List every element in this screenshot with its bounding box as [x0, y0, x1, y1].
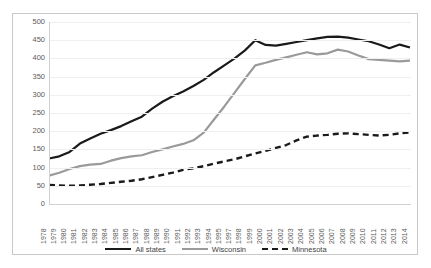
legend-item-all-states[interactable]: All states [105, 245, 165, 254]
gridline [49, 95, 411, 96]
y-axis-tick-label: 450 [17, 36, 45, 44]
legend-label: All states [135, 245, 165, 254]
chart-frame: 500450400350300250200150100500 197819791… [12, 13, 418, 255]
legend-item-minnesota[interactable]: Minnesota [262, 245, 327, 254]
legend-label: Wisconsin [212, 245, 246, 254]
legend-swatch-icon [182, 248, 208, 250]
plot-area [49, 22, 411, 204]
series-line-minnesota [49, 132, 410, 186]
y-axis-tick-label: 300 [17, 91, 45, 99]
y-axis-tick-label: 250 [17, 109, 45, 117]
gridline [49, 58, 411, 59]
legend-label: Minnesota [292, 245, 327, 254]
gridline [49, 149, 411, 150]
gridline [49, 22, 411, 23]
y-axis-tick-label: 400 [17, 54, 45, 62]
y-axis-tick-label: 200 [17, 127, 45, 135]
x-axis-labels: 1978197919801981198219831984198519861987… [49, 206, 411, 244]
gridline [49, 77, 411, 78]
gridline [49, 131, 411, 132]
gridline [49, 168, 411, 169]
y-axis-line [49, 22, 50, 204]
chart-legend: All statesWisconsinMinnesota [13, 242, 419, 256]
gridline [49, 186, 411, 187]
legend-swatch-icon [262, 248, 288, 250]
gridline [49, 113, 411, 114]
y-axis-tick-label: 150 [17, 145, 45, 153]
gridline [49, 40, 411, 41]
chart-plot-wrapper: 500450400350300250200150100500 197819791… [13, 14, 419, 256]
y-axis-tick-label: 500 [17, 18, 45, 26]
y-axis-labels: 500450400350300250200150100500 [17, 14, 45, 198]
y-axis-tick-label: 100 [17, 164, 45, 172]
y-axis-tick-label: 50 [17, 182, 45, 190]
legend-swatch-icon [105, 248, 131, 250]
legend-item-wisconsin[interactable]: Wisconsin [182, 245, 246, 254]
x-axis-line [49, 204, 411, 205]
y-axis-tick-label: 0 [17, 200, 45, 208]
y-axis-tick-label: 350 [17, 73, 45, 81]
